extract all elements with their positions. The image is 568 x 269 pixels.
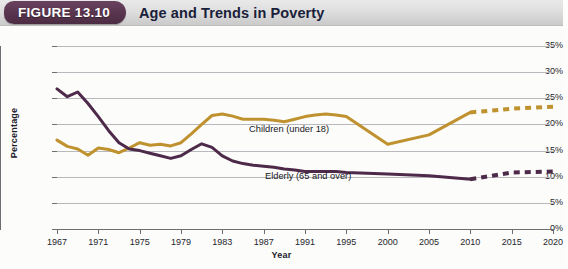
x-tick-label: 1971 bbox=[76, 237, 120, 247]
x-tick-label: 2005 bbox=[407, 237, 451, 247]
x-tick-mark bbox=[553, 229, 554, 234]
figure-number-label: FIGURE 13.10 bbox=[18, 5, 110, 20]
x-tick-label: 1991 bbox=[283, 237, 327, 247]
x-tick-label: 1995 bbox=[324, 237, 368, 247]
x-tick-label: 1979 bbox=[159, 237, 203, 247]
series-line-solid-elderly bbox=[57, 89, 470, 179]
plot-region bbox=[57, 46, 553, 229]
x-tick-label: 1987 bbox=[242, 237, 286, 247]
series-label-elderly: Elderly (65 and over) bbox=[265, 171, 351, 181]
y-axis-line bbox=[0, 46, 1, 230]
x-tick-label: 1967 bbox=[35, 237, 79, 247]
x-tick-label: 2020 bbox=[531, 237, 568, 247]
x-tick-label: 2000 bbox=[366, 237, 410, 247]
x-tick-label: 1983 bbox=[200, 237, 244, 247]
data-lines bbox=[57, 46, 553, 229]
figure-header-band: FIGURE 13.10 Age and Trends in Poverty bbox=[0, 0, 563, 26]
series-line-dashed-elderly bbox=[470, 172, 553, 180]
figure-number-badge: FIGURE 13.10 bbox=[4, 1, 126, 24]
series-line-dashed-children bbox=[470, 107, 553, 113]
x-tick-label: 2015 bbox=[490, 237, 534, 247]
x-tick-label: 2010 bbox=[448, 237, 492, 247]
y-axis-title: Percentage bbox=[9, 88, 19, 178]
x-axis-title: Year bbox=[0, 250, 563, 260]
figure-title: Age and Trends in Poverty bbox=[139, 0, 324, 26]
gridline bbox=[57, 229, 553, 230]
chart-area: Percentage Year 0%5%10%15%20%25%30%35%19… bbox=[0, 26, 563, 269]
series-label-children: Children (under 18) bbox=[249, 124, 329, 134]
x-tick-label: 1975 bbox=[118, 237, 162, 247]
